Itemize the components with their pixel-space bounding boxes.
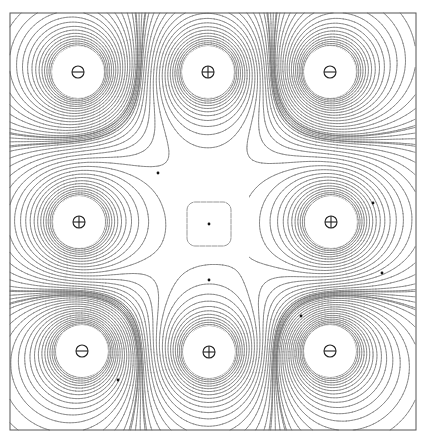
negative-charge-icon bbox=[324, 345, 336, 357]
marker-dot bbox=[117, 379, 120, 382]
marker-dot bbox=[208, 279, 211, 282]
positive-charge-icon bbox=[325, 216, 337, 228]
marker-dot bbox=[300, 315, 303, 318]
marker-dot bbox=[208, 223, 211, 226]
marker-dot bbox=[157, 172, 160, 175]
negative-charge-icon bbox=[72, 66, 84, 78]
equipotential-figure bbox=[0, 0, 424, 439]
negative-charge-icon bbox=[76, 345, 88, 357]
negative-charge-icon bbox=[324, 66, 336, 78]
marker-dot bbox=[381, 272, 384, 275]
positive-charge-icon bbox=[202, 66, 214, 78]
marker-dot bbox=[372, 202, 375, 205]
positive-charge-icon bbox=[203, 346, 215, 358]
positive-charge-icon bbox=[73, 216, 85, 228]
